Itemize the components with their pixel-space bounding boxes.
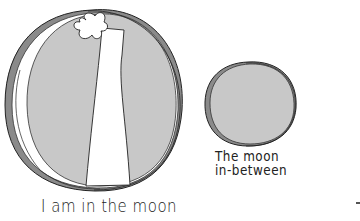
moon-illustration <box>0 0 360 221</box>
large-moon <box>5 10 182 191</box>
small-moon-caption-line1: The moon <box>215 150 287 164</box>
small-moon <box>205 62 296 146</box>
edge-mark <box>356 202 360 204</box>
small-moon-caption: The moon in-between <box>215 150 287 179</box>
small-moon-caption-line2: in-between <box>215 164 287 178</box>
large-moon-caption: I am in the moon <box>41 196 177 217</box>
